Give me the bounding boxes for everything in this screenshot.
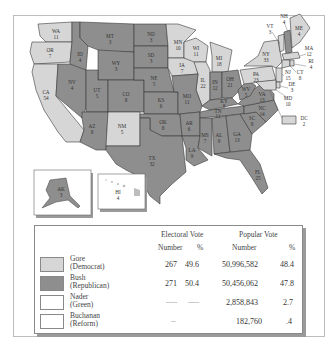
svg-text:8: 8 [162, 125, 165, 131]
state-DC [282, 116, 296, 124]
svg-text:4: 4 [71, 85, 74, 91]
results-legend-table: Electoral Vote Popular Vote Number % Num… [34, 225, 303, 334]
svg-text:3: 3 [115, 66, 118, 72]
democrat-swatch [40, 257, 64, 272]
ev-number-header: Number [158, 243, 183, 252]
pop-number: 182,760 [236, 317, 262, 326]
svg-text:7: 7 [204, 138, 207, 144]
reform-swatch [40, 314, 64, 329]
ev-number: 267 [165, 260, 177, 269]
svg-text:33: 33 [263, 57, 269, 63]
svg-text:10: 10 [175, 45, 181, 51]
legend-row-gore: Gore (Democrat) 267 49.6 50,996,582 48.4 [35, 255, 302, 273]
state-RI [290, 60, 294, 66]
pop-number: 50,456,062 [222, 279, 258, 288]
svg-text:3: 3 [109, 39, 112, 45]
pop-percent-header: % [289, 243, 295, 252]
svg-text:7: 7 [181, 68, 184, 74]
pop-percent: .4 [286, 317, 292, 326]
pop-number: 2,858,843 [226, 298, 258, 307]
alaska-inset: AK3 [34, 170, 93, 218]
svg-text:8: 8 [91, 129, 94, 135]
svg-text:21: 21 [227, 82, 233, 88]
ev-percent: 50.4 [185, 279, 199, 288]
ev-percent-header: % [197, 243, 203, 252]
legend-row-buchanan: Buchanan (Reform) -- 182,760 .4 [35, 312, 302, 330]
hawaii-inset: HI4 [98, 174, 147, 212]
svg-text:18: 18 [216, 61, 222, 67]
svg-text:5: 5 [153, 81, 156, 87]
state-DE [276, 82, 280, 88]
svg-text:25: 25 [255, 175, 261, 181]
svg-text:11: 11 [194, 51, 199, 57]
svg-text:10: 10 [285, 101, 291, 107]
svg-text:3: 3 [291, 87, 294, 93]
svg-text:4: 4 [283, 19, 286, 25]
svg-text:3: 3 [150, 58, 153, 64]
us-election-map: WA11 OR7 CA54 NV4 ID4 MT3 WY3 UT5 CO8 AZ… [0, 0, 335, 225]
svg-text:12: 12 [212, 85, 218, 91]
pop-percent: 48.4 [280, 260, 294, 269]
svg-text:11: 11 [54, 34, 59, 40]
svg-text:6: 6 [188, 126, 191, 132]
ev-percent: ----- [188, 298, 199, 307]
svg-text:5: 5 [96, 93, 99, 99]
svg-text:8: 8 [251, 121, 254, 127]
svg-text:3: 3 [60, 192, 63, 198]
svg-text:14: 14 [259, 111, 265, 117]
popular-vote-header: Popular Vote [239, 230, 278, 239]
svg-text:32: 32 [149, 161, 155, 167]
legend-row-nader: Nader (Green) ----- ----- 2,858,843 2.7 [35, 293, 302, 311]
state-NJ [276, 68, 282, 82]
svg-text:9: 9 [218, 138, 221, 144]
svg-text:22: 22 [200, 83, 206, 89]
svg-text:54: 54 [43, 95, 49, 101]
svg-text:12: 12 [306, 51, 312, 57]
svg-text:8: 8 [125, 97, 128, 103]
candidate-label: Nader (Green) [70, 293, 93, 309]
svg-text:8: 8 [299, 75, 302, 81]
state-CT [282, 60, 290, 68]
svg-text:8: 8 [223, 103, 226, 109]
svg-text:2: 2 [303, 121, 306, 127]
svg-text:3: 3 [269, 29, 272, 35]
svg-text:23: 23 [253, 77, 259, 83]
svg-text:6: 6 [160, 103, 163, 109]
state-AZ [80, 112, 108, 150]
pop-percent: 2.7 [283, 298, 293, 307]
ev-number: -- [171, 317, 175, 326]
svg-text:4: 4 [298, 31, 301, 37]
pop-percent: 47.8 [280, 279, 294, 288]
svg-text:13: 13 [234, 137, 240, 143]
green-swatch [40, 295, 64, 310]
state-MA [282, 52, 300, 60]
svg-text:11: 11 [185, 99, 190, 105]
svg-text:4: 4 [310, 64, 313, 70]
svg-text:13: 13 [259, 97, 265, 103]
svg-text:11: 11 [216, 113, 221, 119]
svg-text:4: 4 [79, 57, 82, 63]
svg-text:5: 5 [245, 92, 248, 98]
svg-text:5: 5 [121, 129, 124, 135]
ev-number: 271 [165, 279, 177, 288]
svg-text:4: 4 [117, 195, 120, 201]
electoral-vote-header: Electoral Vote [161, 230, 203, 239]
republican-swatch [40, 276, 64, 291]
candidate-label: Gore (Democrat) [70, 255, 105, 271]
ev-number: ----- [166, 298, 177, 307]
candidate-label: Buchanan (Reform) [70, 312, 100, 328]
svg-text:3: 3 [150, 37, 153, 43]
svg-text:9: 9 [191, 153, 194, 159]
pop-number: 50,996,582 [222, 260, 258, 269]
ev-percent: 49.6 [185, 260, 199, 269]
pop-number-header: Number [232, 243, 257, 252]
candidate-label: Bush (Republican) [70, 274, 109, 290]
svg-text:7: 7 [49, 53, 52, 59]
legend-row-bush: Bush (Republican) 271 50.4 50,456,062 47… [35, 274, 302, 292]
